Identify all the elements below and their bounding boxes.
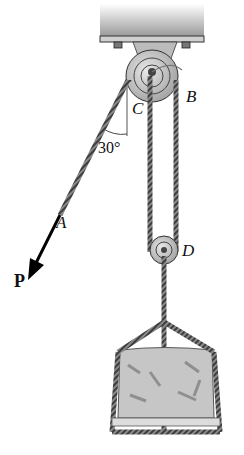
label-a: A (56, 214, 66, 231)
diagram-graphics (0, 0, 244, 455)
label-c: C (132, 100, 143, 117)
label-d: D (182, 242, 194, 259)
pulley-diagram: B C 30° A D P (0, 0, 244, 455)
load-bag (118, 348, 214, 419)
ceiling (100, 4, 204, 42)
label-b: B (186, 88, 196, 105)
force-label-p: P (14, 272, 25, 290)
angle-label: 30° (98, 140, 120, 156)
arrowhead-icon (28, 258, 44, 280)
